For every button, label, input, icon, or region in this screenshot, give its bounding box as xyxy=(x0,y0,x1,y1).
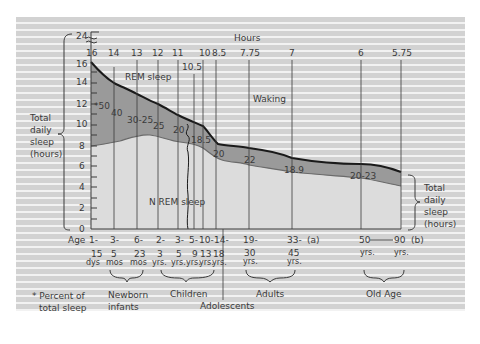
marker-a: (a) xyxy=(307,236,320,245)
age-unit: dys xyxy=(86,259,100,267)
left-axis-label: Totaldailysleep(hours) xyxy=(30,112,62,160)
age-top: 2- xyxy=(156,236,165,245)
rem-percent: 18.9 xyxy=(284,166,304,175)
y-label-24: 24 xyxy=(76,32,87,41)
y-tick: 2 xyxy=(79,204,85,213)
rem-percent: 22 xyxy=(244,156,255,165)
age-unit: yrs. xyxy=(243,258,258,266)
group-adolescents: Adolescents xyxy=(200,302,254,311)
age-unit: yrs. xyxy=(394,249,409,257)
age-unit: yrs. xyxy=(287,258,302,266)
age-top: 19- xyxy=(243,236,258,245)
rem-percent: 20 xyxy=(173,126,184,135)
age-unit: yrs. xyxy=(360,249,375,257)
hours-label: 5.75 xyxy=(392,49,412,58)
hours-label: 8.5 xyxy=(212,49,226,58)
y-tick: 14 xyxy=(76,78,87,87)
hours-label: 13 xyxy=(131,49,142,58)
age-top: 50 xyxy=(359,236,370,245)
age-unit: mos xyxy=(130,259,147,267)
age-top: 1- xyxy=(89,236,98,245)
hours-label: 7 xyxy=(289,49,295,58)
age-label: Age xyxy=(68,236,85,245)
rem-percent: 20-23 xyxy=(350,172,376,181)
group-adults: Adults xyxy=(256,290,284,299)
chart-title: Hours xyxy=(234,34,260,43)
age-unit: yrs. xyxy=(171,259,186,267)
rem-percent: 18.5 xyxy=(191,136,211,145)
age-top: 10- xyxy=(199,236,214,245)
y-tick: 8 xyxy=(79,142,85,151)
y-tick: 10 xyxy=(76,120,87,129)
rem-percent: 30-25 xyxy=(127,116,153,125)
age-top: 3- xyxy=(175,236,184,245)
right-axis-label: Totaldailysleep(hours) xyxy=(424,182,456,230)
nrem-label: N REM sleep xyxy=(149,198,205,207)
age-top: 5- xyxy=(189,236,198,245)
group-children: Children xyxy=(170,290,207,299)
waking-label: Waking xyxy=(253,95,286,104)
hours-label: 10 xyxy=(199,49,210,58)
rem-percent: 20 xyxy=(213,150,224,159)
hours-label: 6 xyxy=(358,49,364,58)
rem-percent: 25 xyxy=(153,122,164,131)
age-top: 6- xyxy=(134,236,143,245)
hours-label: 16 xyxy=(86,49,97,58)
hours-label: 10.5 xyxy=(182,63,202,72)
group-old-age: Old Age xyxy=(366,290,402,299)
y-tick: 0 xyxy=(79,225,85,234)
age-top: 33- xyxy=(287,236,302,245)
y-tick: 12 xyxy=(76,100,87,109)
hours-label: 11 xyxy=(172,49,183,58)
hours-label: 14 xyxy=(108,49,119,58)
y-tick: 6 xyxy=(79,162,85,171)
hours-label: 12 xyxy=(152,49,163,58)
footnote: * Percent oftotal sleep xyxy=(32,290,86,314)
rem-label: REM sleep xyxy=(125,73,172,82)
y-tick: 4 xyxy=(79,183,85,192)
age-unit: yrs. xyxy=(212,259,227,267)
group-newborn: Newborninfants xyxy=(108,289,148,313)
rem-percent: 40 xyxy=(111,109,122,118)
age-top: 3- xyxy=(110,236,119,245)
age-top: 90 xyxy=(394,236,405,245)
age-top: 14- xyxy=(214,236,229,245)
age-unit: mos xyxy=(106,259,123,267)
age-unit: yrs. xyxy=(152,259,167,267)
hours-label: 7.75 xyxy=(240,49,260,58)
marker-b: (b) xyxy=(411,236,424,245)
rem-percent: *50 xyxy=(94,102,110,111)
y-tick: 16 xyxy=(76,60,87,69)
